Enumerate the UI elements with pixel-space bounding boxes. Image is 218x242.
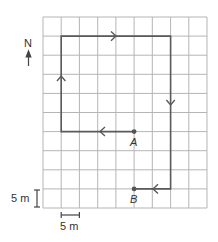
grid	[43, 17, 207, 208]
horizontal-scale-bar	[61, 212, 79, 218]
point-a-dot	[132, 129, 137, 134]
vertical-scale-label: 5 m	[11, 193, 29, 204]
horizontal-scale-label: 5 m	[60, 221, 78, 232]
point-b-label: B	[130, 194, 137, 205]
point-a-label: A	[130, 137, 137, 148]
point-b-dot	[132, 187, 137, 192]
vertical-scale-bar	[34, 190, 40, 207]
north-arrow-icon	[26, 51, 31, 66]
grid-diagram	[0, 0, 218, 242]
compass-label: N	[24, 38, 32, 49]
